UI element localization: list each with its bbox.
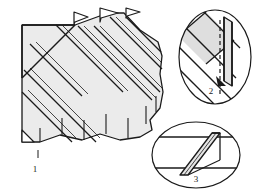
- technical-drawing-canvas: 1: [0, 0, 254, 195]
- callout-label-3: 3: [194, 174, 199, 184]
- detail-circle-2: [176, 6, 254, 110]
- detail2-plate-face: [224, 17, 232, 86]
- callout-label-2: 2: [209, 86, 214, 96]
- callout-label-1: 1: [33, 164, 38, 174]
- corrugated-panel-main-view: [22, 8, 163, 158]
- figure-root: 1: [0, 0, 254, 195]
